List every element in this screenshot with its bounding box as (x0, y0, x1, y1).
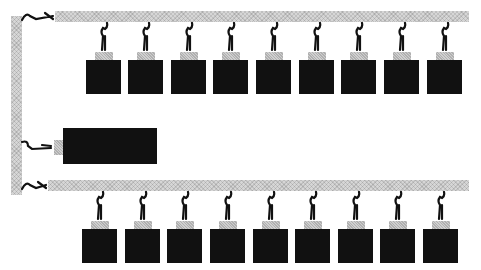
top-bus-module-8 (384, 60, 419, 94)
bottom-bus-module-3 (167, 229, 202, 263)
large-module (63, 128, 157, 164)
top-bus-module-5-cable-icon (266, 22, 282, 52)
bottom-bus-module-2 (125, 229, 160, 263)
bottom-bus-module-6-connector (304, 221, 322, 229)
top-bus-module-7 (341, 60, 376, 94)
top-bus-module-8-connector (393, 52, 411, 60)
bottom-bus-module-8 (380, 229, 415, 263)
top-bus-module-9 (427, 60, 462, 94)
top-bus-module-3 (171, 60, 206, 94)
top-bus-trunk-cable-icon (20, 10, 57, 24)
top-bus-module-4 (213, 60, 248, 94)
bottom-bus-module-1 (82, 229, 117, 263)
bottom-bus-module-4 (210, 229, 245, 263)
top-bus-module-1-connector (95, 52, 113, 60)
large-module-connector (54, 140, 63, 155)
top-bus-module-5-connector (265, 52, 283, 60)
bottom-bus-module-5-cable-icon (263, 191, 279, 221)
top-bus-module-6-cable-icon (309, 22, 325, 52)
bottom-bus-module-1-connector (91, 221, 109, 229)
bottom-bus-module-8-connector (389, 221, 407, 229)
top-bus-module-9-cable-icon (437, 22, 453, 52)
top-bus-module-9-connector (436, 52, 454, 60)
bottom-bus-module-4-cable-icon (220, 191, 236, 221)
top-bus-module-2-connector (137, 52, 155, 60)
bottom-bus-module-7-cable-icon (348, 191, 364, 221)
bottom-bus-module-1-cable-icon (92, 191, 108, 221)
trunk-bus (11, 16, 22, 195)
top-bus-module-6-connector (308, 52, 326, 60)
top-bus-module-3-cable-icon (181, 22, 197, 52)
bottom-bus-module-9-connector (432, 221, 450, 229)
bottom-bus-module-5-connector (262, 221, 280, 229)
bottom-bus-module-6 (295, 229, 330, 263)
bottom-bus-module-2-cable-icon (135, 191, 151, 221)
top-bus-module-2 (128, 60, 163, 94)
top-bus-module-5 (256, 60, 291, 94)
bottom-bus-module-3-cable-icon (177, 191, 193, 221)
top-bus-module-4-cable-icon (223, 22, 239, 52)
top-bus-module-3-connector (180, 52, 198, 60)
top-bus-module-8-cable-icon (394, 22, 410, 52)
bottom-bus-module-8-cable-icon (390, 191, 406, 221)
top-bus (55, 11, 469, 22)
bottom-bus-module-3-connector (176, 221, 194, 229)
large-module-cable-icon (20, 140, 53, 154)
top-bus-module-1-cable-icon (96, 22, 112, 52)
bottom-bus-module-5 (253, 229, 288, 263)
top-bus-module-7-cable-icon (351, 22, 367, 52)
top-bus-module-1 (86, 60, 121, 94)
top-bus-module-4-connector (222, 52, 240, 60)
top-bus-module-7-connector (350, 52, 368, 60)
bottom-bus-module-9 (423, 229, 458, 263)
bottom-bus-module-7-connector (347, 221, 365, 229)
bottom-bus (48, 180, 469, 191)
bottom-bus-module-4-connector (219, 221, 237, 229)
bottom-bus-module-9-cable-icon (433, 191, 449, 221)
top-bus-module-6 (299, 60, 334, 94)
top-bus-module-2-cable-icon (138, 22, 154, 52)
bottom-bus-module-2-connector (134, 221, 152, 229)
bottom-bus-module-7 (338, 229, 373, 263)
bottom-bus-trunk-cable-icon (20, 179, 50, 193)
bottom-bus-module-6-cable-icon (305, 191, 321, 221)
